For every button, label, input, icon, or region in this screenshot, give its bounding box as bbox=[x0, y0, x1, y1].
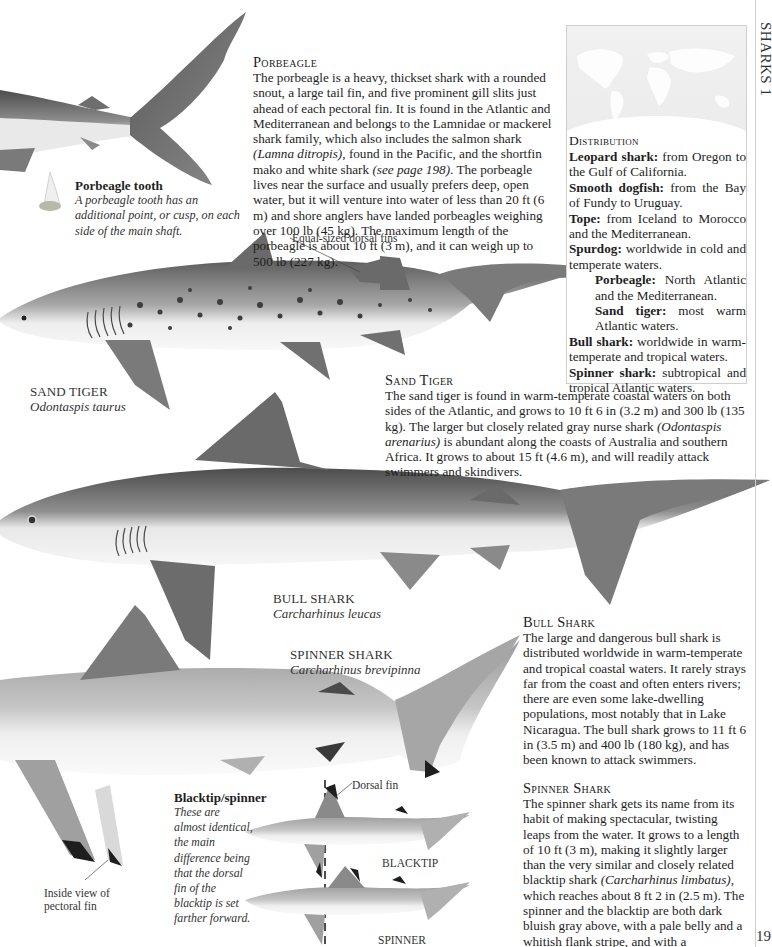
world-map-icon bbox=[567, 26, 746, 131]
distribution-entry: Smooth dogfish: from the Bay of Fundy to… bbox=[569, 180, 746, 211]
bull-shark-heading: Bull Shark bbox=[523, 614, 595, 630]
blacktip-spinner-note: Blacktip/spinner These are almost identi… bbox=[174, 790, 254, 927]
distribution-heading: Distribution bbox=[569, 133, 746, 149]
margin-rule bbox=[755, 0, 756, 947]
spinner-label: SPINNER bbox=[378, 934, 426, 947]
blacktip-label: BLACKTIP bbox=[382, 857, 438, 870]
spinner-shark-heading: Spinner Shark bbox=[523, 780, 611, 796]
porbeagle-heading: Porbeagle bbox=[253, 54, 317, 70]
equal-dorsal-fins-label: Equal-sized dorsal fins bbox=[292, 232, 397, 245]
spinner-shark-illustration bbox=[0, 605, 520, 880]
distribution-entry: Tope: from Iceland to Morocco and the Me… bbox=[569, 211, 746, 242]
sand-tiger-heading: Sand Tiger bbox=[385, 372, 453, 388]
pectoral-fin-label: Inside view of pectoral fin bbox=[44, 887, 124, 913]
distribution-entry: Bull shark: worldwide in warm-temperate … bbox=[569, 334, 746, 365]
running-head: SHARKS 1 bbox=[757, 22, 772, 96]
dorsal-fin-label: Dorsal fin bbox=[352, 779, 398, 792]
world-map-image bbox=[567, 26, 746, 131]
page-number: 19 bbox=[756, 928, 771, 945]
bull-shark-description: The large and dangerous bull shark is di… bbox=[523, 630, 748, 768]
distribution-entry: Spurdog: worldwide in cold and temperate… bbox=[569, 241, 746, 272]
distribution-entry: Porbeagle: North Atlantic and the Medite… bbox=[569, 272, 746, 303]
porbeagle-tooth-note: Porbeagle tooth A porbeagle tooth has an… bbox=[75, 178, 245, 239]
bull-shark-caption: Bull Shark Carcharhinus leucas bbox=[273, 591, 381, 621]
distribution-list: Distribution Leopard shark: from Oregon … bbox=[569, 133, 746, 396]
spinner-shark-caption: Spinner Shark Carcharhinus brevipinna bbox=[290, 647, 421, 677]
distribution-box: Distribution Leopard shark: from Oregon … bbox=[566, 25, 747, 384]
distribution-entry: Leopard shark: from Oregon to the Gulf o… bbox=[569, 149, 746, 180]
sand-tiger-caption: Sand Tiger Odontaspis taurus bbox=[30, 384, 126, 414]
spinner-shark-description: The spinner shark gets its name from its… bbox=[523, 796, 748, 947]
distribution-entry: Sand tiger: most warm Atlantic waters. bbox=[569, 303, 746, 334]
sand-tiger-description: The sand tiger is found in warm-temperat… bbox=[385, 388, 745, 480]
